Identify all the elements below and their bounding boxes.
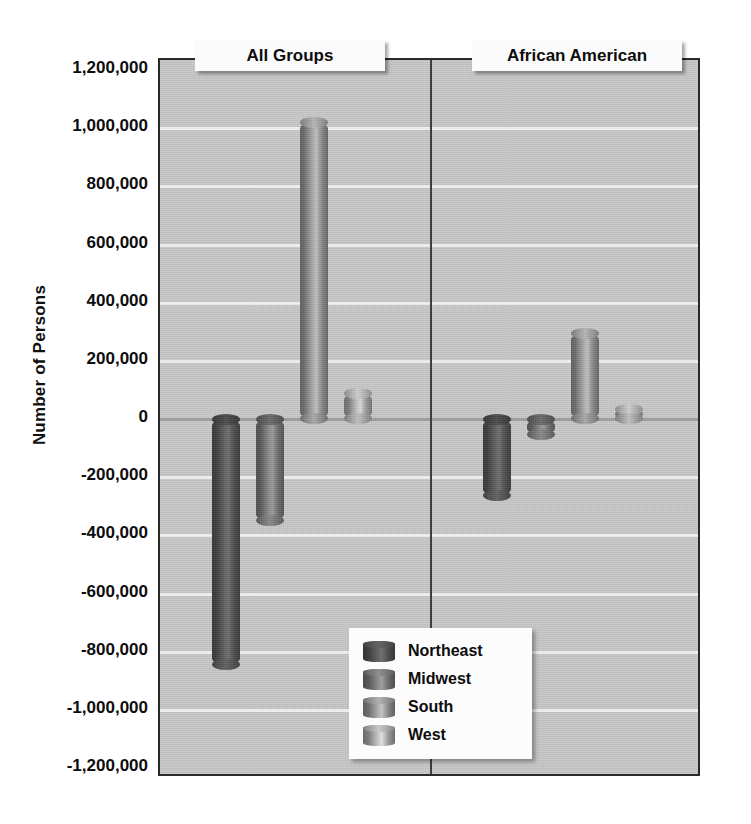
gridline xyxy=(160,185,698,188)
legend-swatch-south-icon xyxy=(363,697,395,718)
bar-cap-top xyxy=(256,414,284,425)
y-tick-label: 1,000,000 xyxy=(28,116,148,136)
y-tick-label: 600,000 xyxy=(28,233,148,253)
legend-swatch-cap xyxy=(363,725,395,732)
y-tick-label: 0 xyxy=(28,407,148,427)
gridline xyxy=(160,127,698,130)
bar-cap-bottom xyxy=(344,413,372,424)
legend-swatch-cap xyxy=(363,697,395,704)
y-tick-label: -800,000 xyxy=(28,640,148,660)
legend-swatch-northeast-icon xyxy=(363,641,395,662)
bar-body xyxy=(256,419,284,521)
legend-swatch-west-icon xyxy=(363,725,395,746)
bar-body xyxy=(300,122,328,419)
bar-cap-top xyxy=(527,414,555,425)
y-axis-tick-labels: 1,200,0001,000,000800,000600,000400,0002… xyxy=(22,0,148,824)
gridline xyxy=(160,476,698,479)
legend-label: Northeast xyxy=(408,642,483,660)
bar-midwest-panel-1 xyxy=(256,419,284,521)
bar-body xyxy=(571,333,599,419)
bar-cap-bottom xyxy=(212,659,240,670)
bar-cap-bottom xyxy=(300,413,328,424)
y-tick-label: -400,000 xyxy=(28,523,148,543)
gridline xyxy=(160,593,698,596)
legend-swatch-cap xyxy=(363,641,395,648)
legend-item-midwest: Midwest xyxy=(349,665,532,693)
panel-header-1: All Groups xyxy=(195,40,385,71)
bar-body xyxy=(212,419,240,665)
legend-item-west: West xyxy=(349,721,532,749)
bar-south-panel-1 xyxy=(300,122,328,419)
bar-cap-top xyxy=(212,414,240,425)
bar-west-panel-2 xyxy=(615,409,643,419)
bar-cap-bottom xyxy=(571,413,599,424)
legend-label: South xyxy=(408,698,453,716)
y-tick-label: 1,200,000 xyxy=(28,58,148,78)
gridline xyxy=(160,244,698,247)
legend-label: West xyxy=(408,726,446,744)
y-tick-label: -200,000 xyxy=(28,465,148,485)
bar-west-panel-1 xyxy=(344,393,372,419)
legend-label: Midwest xyxy=(408,670,471,688)
bar-cap-bottom xyxy=(615,413,643,424)
bar-cap-bottom xyxy=(483,490,511,501)
bar-midwest-panel-2 xyxy=(527,419,555,435)
gridline xyxy=(160,302,698,305)
legend-swatch-cap xyxy=(363,669,395,676)
panel-header-2: African American xyxy=(472,40,682,71)
legend-item-south: South xyxy=(349,693,532,721)
legend-swatch-midwest-icon xyxy=(363,669,395,690)
y-tick-label: 800,000 xyxy=(28,174,148,194)
gridline xyxy=(160,534,698,537)
y-tick-label: 400,000 xyxy=(28,291,148,311)
y-tick-label: -600,000 xyxy=(28,582,148,602)
y-tick-label: -1,200,000 xyxy=(28,756,148,776)
bar-cap-bottom xyxy=(256,515,284,526)
bar-body xyxy=(483,419,511,496)
chart-figure: Number of Persons 1,200,0001,000,000800,… xyxy=(0,0,751,824)
bar-south-panel-2 xyxy=(571,333,599,419)
legend-item-northeast: Northeast xyxy=(349,637,532,665)
gridline xyxy=(160,360,698,363)
bar-cap-top xyxy=(344,388,372,399)
bar-northeast-panel-2 xyxy=(483,419,511,496)
bar-cap-bottom xyxy=(527,429,555,440)
y-tick-label: -1,000,000 xyxy=(28,698,148,718)
y-tick-label: 200,000 xyxy=(28,349,148,369)
bar-northeast-panel-1 xyxy=(212,419,240,665)
legend: NortheastMidwestSouthWest xyxy=(349,628,532,759)
bar-cap-top xyxy=(483,414,511,425)
